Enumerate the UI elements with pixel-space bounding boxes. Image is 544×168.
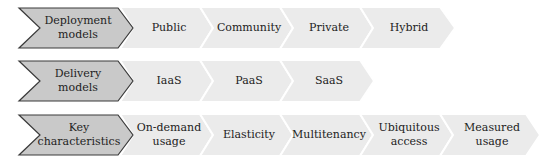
item-saas: SaaS (293, 60, 365, 102)
header-label-deployment-models: Deployment models (38, 7, 118, 49)
item-on-demand-usage: On-demand usage (131, 114, 207, 156)
item-community: Community (213, 7, 285, 49)
row-delivery-models: Delivery models IaaS PaaS SaaS (0, 60, 544, 102)
item-paas: PaaS (213, 60, 285, 102)
item-private: Private (293, 7, 365, 49)
row-deployment-models: Deployment models Public Community Priva… (0, 7, 544, 49)
item-iaas: IaaS (133, 60, 205, 102)
item-public: Public (133, 7, 205, 49)
row-key-characteristics: Key characteristics On-demand usage Elas… (0, 114, 544, 156)
item-ubiquitous-access: Ubiquitous access (373, 114, 445, 156)
item-elasticity: Elasticity (213, 114, 285, 156)
item-measured-usage: Measured usage (454, 114, 530, 156)
item-multitenancy: Multitenancy (291, 114, 367, 156)
header-label-key-characteristics: Key characteristics (36, 114, 122, 156)
header-label-delivery-models: Delivery models (38, 60, 118, 102)
item-hybrid: Hybrid (373, 7, 445, 49)
